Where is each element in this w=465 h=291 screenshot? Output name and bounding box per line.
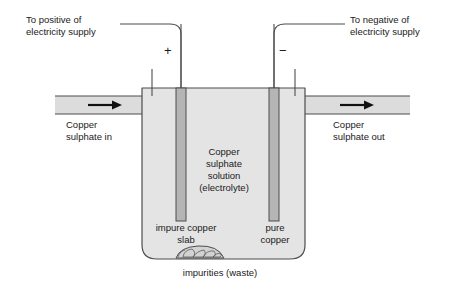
positive-terminal-label: To positive of electricity supply bbox=[26, 14, 96, 38]
anode-label: impure copper slab bbox=[146, 222, 226, 246]
negative-sign-label: − bbox=[279, 44, 287, 57]
positive-sign-label: + bbox=[164, 44, 172, 57]
impurities-label: impurities (waste) bbox=[155, 267, 285, 279]
electrolyte-label: Copper sulphate solution (electrolyte) bbox=[193, 146, 255, 194]
cathode-label: pure copper bbox=[250, 222, 300, 246]
positive-supply-wire bbox=[120, 24, 181, 88]
negative-terminal-label: To negative of electricity supply bbox=[350, 14, 420, 38]
electrolysis-diagram: To positive of electricity supply To neg… bbox=[0, 0, 465, 291]
outlet-label: Copper sulphate out bbox=[333, 119, 385, 143]
inlet-label: Copper sulphate in bbox=[66, 119, 112, 143]
